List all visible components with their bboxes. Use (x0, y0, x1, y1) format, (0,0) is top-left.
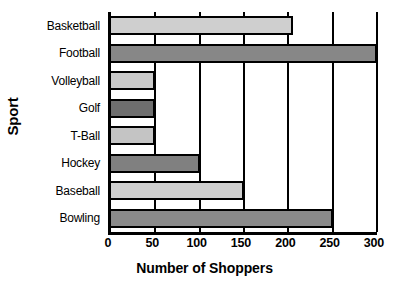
y-tick-label: Hockey (18, 150, 104, 178)
plot-inner (111, 12, 377, 232)
bar-row (111, 12, 377, 40)
bar (109, 209, 333, 228)
bar-row (111, 150, 377, 178)
bar-row (111, 67, 377, 95)
bar (109, 154, 200, 173)
y-tick-label: Volleyball (18, 67, 104, 95)
bar (109, 71, 155, 90)
bar (109, 16, 293, 35)
x-axis-title: Number of Shoppers (0, 260, 409, 276)
y-tick-label: Football (18, 40, 104, 68)
bar (109, 126, 155, 145)
x-tick-label: 200 (275, 236, 295, 250)
y-tick-label: T-Ball (18, 122, 104, 150)
bar-chart: Sport BasketballFootballVolleyballGolfT-… (0, 0, 409, 294)
x-tick-label: 300 (364, 236, 384, 250)
y-tick-label: Golf (18, 95, 104, 123)
bar-row (111, 205, 377, 233)
bar (109, 44, 377, 63)
y-tick-label: Basketball (18, 12, 104, 40)
y-tick-label: Bowling (18, 205, 104, 233)
y-axis-tick-labels: BasketballFootballVolleyballGolfT-BallHo… (18, 12, 104, 232)
x-tick-label: 0 (105, 236, 112, 250)
bars-layer (111, 12, 377, 232)
bar-row (111, 177, 377, 205)
bar (109, 181, 244, 200)
x-axis-tick-labels: 050100150200250300 (108, 236, 374, 252)
bar-row (111, 122, 377, 150)
x-tick-label: 150 (231, 236, 251, 250)
bar-row (111, 95, 377, 123)
x-tick-label: 50 (146, 236, 160, 250)
bar (109, 99, 155, 118)
x-tick-label: 100 (187, 236, 207, 250)
plot-area (108, 12, 377, 235)
x-tick-label: 250 (320, 236, 340, 250)
y-tick-label: Baseball (18, 177, 104, 205)
bar-row (111, 40, 377, 68)
